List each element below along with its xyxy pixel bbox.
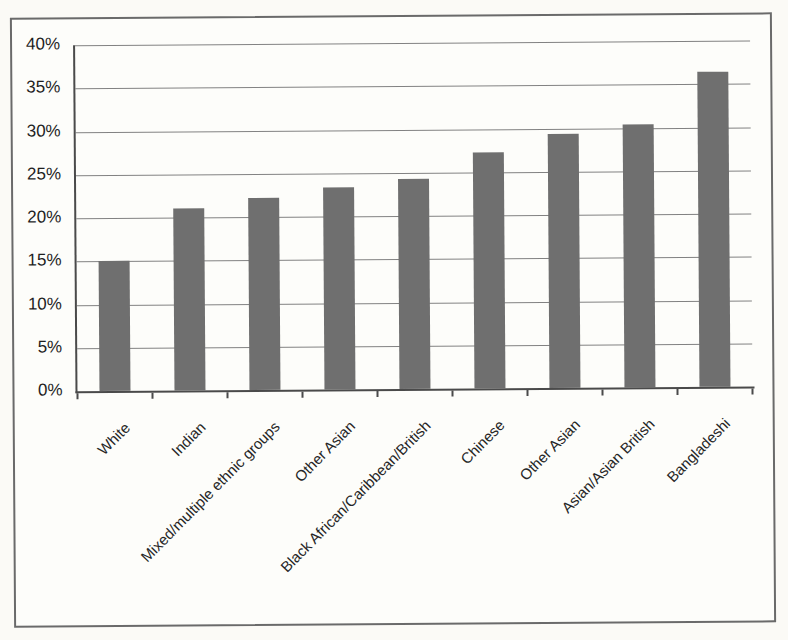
bar — [248, 198, 280, 390]
x-tick-mark — [152, 393, 154, 399]
y-tick-label: 35% — [12, 78, 60, 98]
y-tick-label: 0% — [14, 380, 62, 400]
x-tick-mark — [376, 391, 378, 397]
y-tick-label: 15% — [14, 251, 62, 271]
x-tick-mark — [301, 392, 303, 398]
bar — [697, 72, 730, 387]
y-tick-label: 30% — [13, 121, 61, 141]
bar — [398, 179, 430, 389]
category-label: Black African/Caribbean/British — [277, 417, 434, 576]
plot-area — [75, 41, 752, 392]
y-tick-label: 10% — [14, 294, 62, 314]
bar — [473, 152, 506, 388]
category-label: Other Asian — [516, 416, 583, 484]
x-tick-mark — [451, 391, 453, 397]
x-tick-mark — [601, 390, 603, 396]
bar — [323, 188, 355, 390]
x-axis-tick-marks — [12, 14, 770, 19]
category-label: White — [94, 419, 133, 458]
x-axis-category-labels: WhiteIndianMixed/multiple ethnic groupsO… — [12, 14, 770, 19]
bar — [99, 261, 131, 391]
y-tick-label: 25% — [13, 164, 61, 184]
y-axis-tick-labels: 40%35%30%25%20%15%10%5%0% — [12, 14, 770, 19]
x-tick-mark — [526, 390, 528, 396]
bar — [623, 124, 656, 387]
x-tick-mark — [226, 392, 228, 398]
gridline-40pct — [75, 41, 750, 47]
y-tick-label: 40% — [12, 34, 60, 54]
gridline-35pct — [75, 84, 750, 90]
x-tick-mark — [77, 393, 79, 399]
chart-figure-frame: 40%35%30%25%20%15%10%5%0% WhiteIndianMix… — [10, 12, 776, 627]
bar — [548, 133, 581, 388]
y-tick-label: 20% — [13, 207, 61, 227]
y-tick-label: 5% — [14, 337, 62, 357]
category-label: Bangladeshi — [663, 415, 733, 486]
x-tick-mark — [751, 388, 753, 394]
category-label: Other Asian — [291, 417, 358, 485]
category-label: Indian — [167, 418, 208, 459]
category-label: Mixed/multiple ethnic groups — [138, 418, 284, 565]
x-tick-mark — [676, 389, 678, 395]
scanned-chart-page: 40%35%30%25%20%15%10%5%0% WhiteIndianMix… — [0, 0, 788, 640]
bar — [173, 209, 205, 391]
category-label: Chinese — [458, 416, 509, 467]
